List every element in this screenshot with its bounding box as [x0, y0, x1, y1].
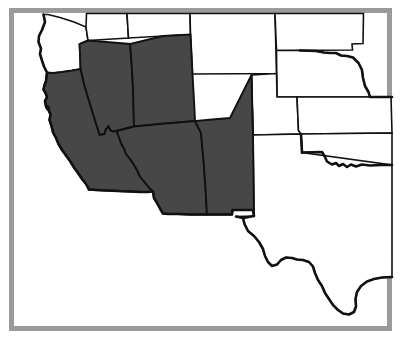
oklahoma-panhandle-edge [301, 134, 302, 153]
state-utah[interactable] [130, 35, 195, 127]
state-nebraska[interactable] [277, 51, 371, 98]
us-west-map [0, 0, 409, 348]
state-south-dakota[interactable] [275, 14, 364, 51]
state-wyoming[interactable] [190, 14, 277, 75]
state-texas[interactable] [236, 134, 392, 315]
state-kansas[interactable] [297, 97, 392, 134]
state-idaho[interactable] [86, 14, 129, 41]
map-figure [0, 0, 409, 348]
